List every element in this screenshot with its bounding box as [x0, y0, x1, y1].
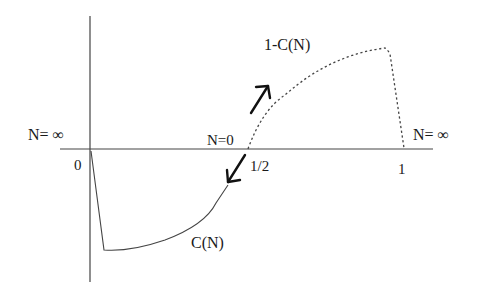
label-n-infinity-right: N= ∞	[413, 126, 449, 143]
arrow-up-icon	[251, 86, 270, 113]
arrow-down-icon	[227, 155, 245, 182]
label-n-infinity-left: N= ∞	[28, 126, 64, 143]
label-origin: 0	[74, 157, 82, 173]
diagram-canvas: N= ∞ N= ∞ N=0 0 1/2 1 1-C(N) C(N)	[0, 0, 488, 301]
label-n-zero: N=0	[207, 132, 234, 148]
label-curve-upper: 1-C(N)	[264, 36, 310, 54]
label-half: 1/2	[250, 158, 269, 174]
curve-one-minus-c-n	[248, 48, 404, 149]
label-one: 1	[398, 161, 406, 177]
label-curve-lower: C(N)	[191, 234, 224, 252]
